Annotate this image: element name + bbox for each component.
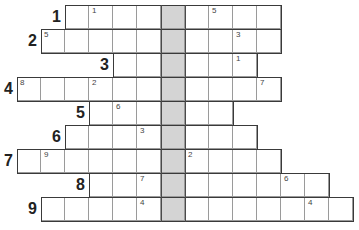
shaded-answer-cell[interactable] <box>161 29 185 53</box>
answer-cell[interactable] <box>41 197 65 221</box>
row-label: 1 <box>41 5 61 29</box>
answer-cell[interactable] <box>329 197 353 221</box>
shaded-answer-cell[interactable] <box>161 173 185 197</box>
answer-cell[interactable] <box>113 197 137 221</box>
cell-number: 5 <box>44 30 48 39</box>
answer-cell[interactable] <box>185 125 209 149</box>
answer-cell[interactable] <box>233 77 257 101</box>
answer-cell[interactable] <box>185 173 209 197</box>
answer-cell[interactable] <box>65 77 89 101</box>
answer-cell[interactable] <box>185 77 209 101</box>
answer-cell[interactable] <box>113 29 137 53</box>
answer-cell[interactable] <box>89 125 113 149</box>
cell-number: 1 <box>92 6 96 15</box>
answer-cell[interactable] <box>185 5 209 29</box>
row-label: 2 <box>17 29 37 53</box>
answer-cell[interactable]: 2 <box>89 77 113 101</box>
answer-cell[interactable] <box>257 5 281 29</box>
row-label: 9 <box>17 197 37 221</box>
answer-cell[interactable] <box>233 5 257 29</box>
answer-cell[interactable] <box>185 53 209 77</box>
answer-cell[interactable] <box>233 197 257 221</box>
answer-cell[interactable]: 4 <box>305 197 329 221</box>
answer-cell[interactable] <box>233 173 257 197</box>
answer-cell[interactable] <box>113 53 137 77</box>
cell-number: 8 <box>20 78 24 87</box>
answer-cell[interactable] <box>89 101 113 125</box>
answer-cell[interactable] <box>257 29 281 53</box>
answer-cell[interactable] <box>17 149 41 173</box>
shaded-answer-cell[interactable] <box>161 53 185 77</box>
answer-cell[interactable] <box>137 29 161 53</box>
answer-cell[interactable] <box>209 149 233 173</box>
answer-cell[interactable] <box>65 5 89 29</box>
answer-cell[interactable] <box>257 197 281 221</box>
cell-number: 6 <box>116 102 120 111</box>
answer-cell[interactable]: 3 <box>233 29 257 53</box>
answer-cell[interactable] <box>305 173 329 197</box>
shaded-answer-cell[interactable] <box>161 125 185 149</box>
answer-cell[interactable] <box>185 29 209 53</box>
answer-cell[interactable]: 6 <box>281 173 305 197</box>
answer-cell[interactable]: 7 <box>257 77 281 101</box>
answer-cell[interactable] <box>209 197 233 221</box>
answer-cell[interactable] <box>137 149 161 173</box>
answer-cell[interactable]: 5 <box>209 5 233 29</box>
answer-cell[interactable]: 5 <box>41 29 65 53</box>
answer-cell[interactable] <box>113 5 137 29</box>
cell-number: 6 <box>284 174 288 183</box>
shaded-answer-cell[interactable] <box>161 77 185 101</box>
answer-cell[interactable] <box>209 29 233 53</box>
answer-cell[interactable] <box>137 53 161 77</box>
shaded-answer-cell[interactable] <box>161 101 185 125</box>
answer-cell[interactable] <box>209 101 233 125</box>
answer-cell[interactable] <box>137 77 161 101</box>
answer-cell[interactable] <box>209 173 233 197</box>
shaded-answer-cell[interactable] <box>161 149 185 173</box>
answer-cell[interactable] <box>209 53 233 77</box>
answer-cell[interactable]: 2 <box>185 149 209 173</box>
answer-cell[interactable] <box>209 125 233 149</box>
answer-cell[interactable]: 3 <box>137 125 161 149</box>
answer-cell[interactable] <box>257 173 281 197</box>
answer-cell[interactable] <box>65 125 89 149</box>
cell-number: 7 <box>140 174 144 183</box>
answer-cell[interactable] <box>257 149 281 173</box>
answer-cell[interactable] <box>89 29 113 53</box>
answer-cell[interactable]: 1 <box>233 53 257 77</box>
answer-cell[interactable] <box>113 173 137 197</box>
cell-number: 7 <box>260 78 264 87</box>
answer-cell[interactable] <box>137 101 161 125</box>
answer-cell[interactable]: 9 <box>41 149 65 173</box>
cell-number: 2 <box>92 78 96 87</box>
shaded-answer-cell[interactable] <box>161 5 185 29</box>
answer-cell[interactable] <box>65 197 89 221</box>
cell-number: 4 <box>140 198 144 207</box>
answer-cell[interactable] <box>185 101 209 125</box>
answer-cell[interactable] <box>113 77 137 101</box>
answer-cell[interactable]: 7 <box>137 173 161 197</box>
answer-cell[interactable] <box>41 77 65 101</box>
answer-cell[interactable] <box>233 125 257 149</box>
answer-cell[interactable] <box>89 197 113 221</box>
answer-cell[interactable] <box>209 77 233 101</box>
answer-cell[interactable]: 6 <box>113 101 137 125</box>
cell-number: 9 <box>44 150 48 159</box>
answer-cell[interactable] <box>65 29 89 53</box>
row-label: 4 <box>0 77 13 101</box>
answer-cell[interactable] <box>233 149 257 173</box>
answer-cell[interactable] <box>113 125 137 149</box>
shaded-answer-cell[interactable] <box>161 197 185 221</box>
answer-cell[interactable] <box>89 173 113 197</box>
answer-cell[interactable] <box>89 149 113 173</box>
answer-cell[interactable]: 8 <box>17 77 41 101</box>
cell-number: 3 <box>140 126 144 135</box>
answer-cell[interactable]: 1 <box>89 5 113 29</box>
answer-cell[interactable] <box>281 197 305 221</box>
answer-cell[interactable] <box>113 149 137 173</box>
answer-cell[interactable] <box>137 5 161 29</box>
answer-cell[interactable] <box>185 197 209 221</box>
answer-cell[interactable]: 4 <box>137 197 161 221</box>
answer-cell[interactable] <box>65 149 89 173</box>
cell-number: 1 <box>236 54 240 63</box>
